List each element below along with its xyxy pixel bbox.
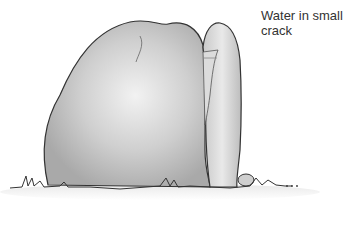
annotation-line-1: Water in small [261, 8, 343, 23]
annotation-line-2: crack [261, 23, 343, 38]
annotation-label: Water in small crack [261, 8, 343, 38]
main-rock [44, 21, 210, 187]
